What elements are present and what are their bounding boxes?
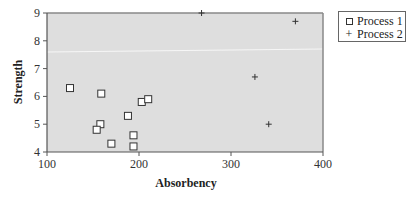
legend: Process 1 + Process 2 [338, 11, 406, 42]
legend-label: Process 2 [357, 28, 403, 41]
x-tick-label: 300 [222, 157, 240, 171]
legend-item-process-2: + Process 2 [344, 28, 405, 41]
y-tick-label: 7 [34, 62, 40, 76]
plus-marker-icon: + [344, 28, 354, 41]
y-axis-title: Strength [11, 59, 25, 104]
x-tick-label: 200 [130, 157, 148, 171]
y-tick-label: 6 [34, 89, 40, 103]
plot-area [47, 13, 323, 152]
square-marker-icon [130, 132, 137, 139]
square-marker-icon [108, 140, 115, 147]
y-tick-label: 5 [34, 117, 40, 131]
y-tick-label: 9 [34, 6, 40, 20]
square-marker-icon [67, 85, 74, 92]
square-marker-icon [124, 112, 131, 119]
square-marker-icon [98, 90, 105, 97]
plot-background [47, 13, 323, 152]
square-marker-icon [145, 96, 152, 103]
x-tick-label: 100 [38, 157, 56, 171]
square-marker-icon [130, 143, 137, 150]
y-tick-label: 8 [34, 34, 40, 48]
x-axis-title: Absorbency [155, 176, 216, 190]
x-tick-label: 400 [314, 157, 332, 171]
square-marker-icon [93, 126, 100, 133]
